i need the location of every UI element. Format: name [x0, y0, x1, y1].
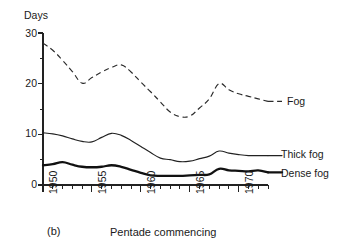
series-line-fog — [43, 43, 268, 117]
panel-letter: (b) — [47, 225, 60, 237]
figure-panel-b: Days 30 20 10 0 19501955196019651970 Fog… — [0, 0, 337, 248]
y-tick-label-30: 30 — [17, 27, 37, 39]
legend-label-dense-fog: Dense fog — [281, 167, 329, 179]
x-tick-label-1950: 1950 — [47, 171, 59, 194]
y-tick-label-10: 10 — [17, 127, 37, 139]
series-line-thick-fog — [43, 133, 268, 162]
x-tick-label-1965: 1965 — [194, 171, 206, 194]
y-tick-label-20: 20 — [17, 77, 37, 89]
y-axis-ticks — [38, 33, 44, 185]
legend-label-thick-fog: Thick fog — [281, 148, 324, 160]
x-tick-label-1970: 1970 — [243, 171, 255, 194]
x-tick-label-1960: 1960 — [145, 171, 157, 194]
series-group — [43, 43, 268, 176]
y-axis-title: Days — [24, 9, 48, 21]
axes-group — [38, 33, 269, 192]
x-tick-label-1955: 1955 — [96, 171, 108, 194]
legend-label-fog: Fog — [287, 95, 305, 107]
y-tick-label-0: 0 — [17, 178, 37, 190]
line-chart-plot — [0, 0, 337, 248]
x-axis-title: Pentade commencing — [110, 226, 216, 238]
